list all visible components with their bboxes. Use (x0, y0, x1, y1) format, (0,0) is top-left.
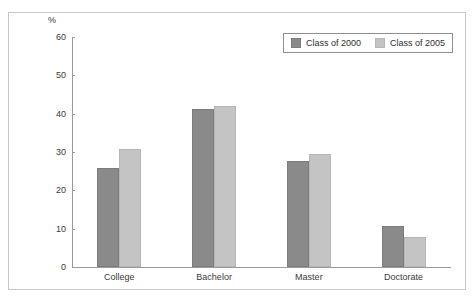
bar-doctorate-class-of-2000 (382, 226, 404, 267)
x-axis-line (72, 267, 451, 268)
y-axis-tick-label: 0 (40, 262, 66, 272)
y-axis-tick-label: 20 (40, 185, 66, 195)
y-axis-tick-label: 50 (40, 70, 66, 80)
y-axis-tick-label: 30 (40, 147, 66, 157)
bar-college-class-of-2005 (119, 149, 141, 267)
bar-doctorate-class-of-2005 (404, 237, 426, 267)
legend-swatch-icon-class-of-2000 (291, 38, 301, 48)
legend-label-class-of-2005: Class of 2005 (390, 38, 445, 48)
bar-college-class-of-2000 (97, 168, 119, 267)
bar-master-class-of-2005 (309, 154, 331, 267)
bar-chart-figure: % 0102030405060 CollegeBachelorMasterDoc… (0, 0, 476, 298)
x-axis-tick-label-master: Master (295, 272, 323, 282)
legend-entry-class-of-2000: Class of 2000 (291, 38, 361, 48)
y-axis-tick-label: 60 (40, 32, 66, 42)
chart-title-fragment (0, 0, 476, 4)
y-axis-tick-mark (72, 229, 75, 230)
y-axis-tick-mark (72, 152, 75, 153)
bar-master-class-of-2000 (287, 161, 309, 267)
y-axis-tick-label: 40 (40, 109, 66, 119)
x-axis-tick-label-bachelor: Bachelor (196, 272, 232, 282)
legend-label-class-of-2000: Class of 2000 (306, 38, 361, 48)
y-axis-tick-mark (72, 75, 75, 76)
chart-legend: Class of 2000 Class of 2005 (283, 33, 453, 53)
bar-bachelor-class-of-2005 (214, 106, 236, 267)
bar-bachelor-class-of-2000 (192, 109, 214, 267)
y-axis-tick-mark (72, 37, 75, 38)
y-axis-tick-mark (72, 114, 75, 115)
y-axis-unit-label: % (48, 15, 56, 25)
x-axis-tick-label-doctorate: Doctorate (384, 272, 423, 282)
y-axis-tick-label: 10 (40, 224, 66, 234)
legend-swatch-icon-class-of-2005 (375, 38, 385, 48)
legend-entry-class-of-2005: Class of 2005 (375, 38, 445, 48)
y-axis-tick-mark (72, 190, 75, 191)
x-axis-tick-label-college: College (104, 272, 135, 282)
